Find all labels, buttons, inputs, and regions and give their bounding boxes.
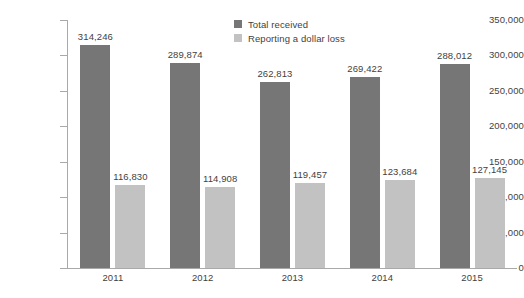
bar-2015-series1[interactable]: 288,012 <box>440 64 470 268</box>
bar-chart: 050,000100,000150,000200,000250,000300,0… <box>0 0 524 298</box>
bar-value-label: 114,908 <box>203 173 237 184</box>
y-axis-tick <box>60 126 68 127</box>
y-axis-tick <box>60 20 68 21</box>
plot-area: 314,246116,830289,874114,908262,813119,4… <box>68 20 517 268</box>
bar-value-label: 123,684 <box>382 166 417 177</box>
legend-item-total-received[interactable]: Total received <box>234 18 345 30</box>
bar-value-label: 314,246 <box>78 31 113 42</box>
bar-value-label: 269,422 <box>347 63 382 74</box>
bar-2014-series2[interactable]: 123,684 <box>385 180 415 268</box>
bar-group: 314,246116,830 <box>68 20 158 268</box>
bar-value-label: 119,457 <box>293 169 327 180</box>
bar-value-label: 288,012 <box>437 50 472 61</box>
bar-2011-series2[interactable]: 116,830 <box>115 185 145 268</box>
bar-value-label: 116,830 <box>113 171 147 182</box>
legend-swatch-total-received <box>234 20 242 28</box>
chart-legend: Total received Reporting a dollar loss <box>234 18 345 46</box>
bar-group: 269,422123,684 <box>337 20 427 268</box>
x-axis-label-2012: 2012 <box>158 272 248 283</box>
bar-value-label: 262,813 <box>257 68 292 79</box>
bar-2015-series2[interactable]: 127,145 <box>475 178 505 268</box>
bar-2013-series2[interactable]: 119,457 <box>295 183 325 268</box>
bar-group: 289,874114,908 <box>158 20 248 268</box>
bar-group: 288,012127,145 <box>427 20 517 268</box>
bar-value-label: 127,145 <box>472 164 507 175</box>
x-axis-label-2013: 2013 <box>248 272 338 283</box>
legend-label-total-received: Total received <box>248 19 308 30</box>
bar-2012-series1[interactable]: 289,874 <box>170 63 200 268</box>
bar-2012-series2[interactable]: 114,908 <box>205 187 235 268</box>
bar-value-label: 289,874 <box>168 49 203 60</box>
x-axis-label-2014: 2014 <box>337 272 427 283</box>
bar-2011-series1[interactable]: 314,246 <box>80 45 110 268</box>
bar-group: 262,813119,457 <box>248 20 338 268</box>
legend-swatch-dollar-loss <box>234 34 242 42</box>
y-axis-tick <box>60 197 68 198</box>
legend-item-dollar-loss[interactable]: Reporting a dollar loss <box>234 32 345 44</box>
y-axis-tick <box>60 233 68 234</box>
x-axis-label-2011: 2011 <box>68 272 158 283</box>
bar-2013-series1[interactable]: 262,813 <box>260 82 290 268</box>
y-axis-tick <box>60 162 68 163</box>
x-axis-label-2015: 2015 <box>427 272 517 283</box>
bar-2014-series1[interactable]: 269,422 <box>350 77 380 268</box>
y-axis-tick <box>60 55 68 56</box>
y-axis-tick <box>60 91 68 92</box>
x-axis-line <box>67 268 517 269</box>
legend-label-dollar-loss: Reporting a dollar loss <box>248 33 345 44</box>
